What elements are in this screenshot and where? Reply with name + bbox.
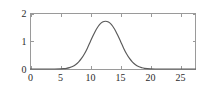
x-tick-label-20: 20 (146, 72, 156, 83)
y-axis-tick-labels: 012 (22, 8, 27, 75)
x-tick-label-5: 5 (58, 72, 63, 83)
x-tick-label-10: 10 (86, 72, 96, 83)
x-tick-label-15: 15 (116, 72, 126, 83)
x-tick-label-0: 0 (28, 72, 33, 83)
gaussian-line-chart: 0510152025 012 (0, 0, 207, 91)
chart-figure: 0510152025 012 (0, 0, 207, 91)
y-tick-label-1: 1 (22, 36, 27, 47)
y-axis-ticks (31, 15, 196, 70)
x-tick-label-25: 25 (176, 72, 186, 83)
x-axis-tick-labels: 0510152025 (28, 72, 186, 83)
y-tick-label-2: 2 (22, 8, 27, 19)
y-tick-label-0: 0 (22, 64, 27, 75)
data-curve-line (31, 21, 196, 69)
plot-frame (31, 14, 196, 70)
